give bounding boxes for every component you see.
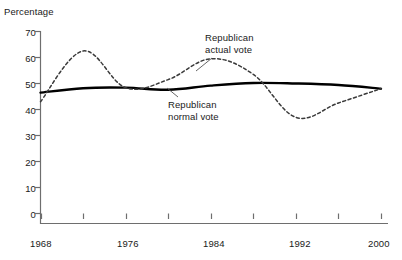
axes-group xyxy=(35,31,388,224)
series-group xyxy=(41,51,382,119)
chart-figure: Percentage 70 60 50 40 30 20 10 0 1968 1… xyxy=(0,0,402,260)
chart-canvas xyxy=(0,0,402,260)
x-axis-ticks xyxy=(42,214,382,220)
series-republican-normal-vote xyxy=(41,83,382,93)
